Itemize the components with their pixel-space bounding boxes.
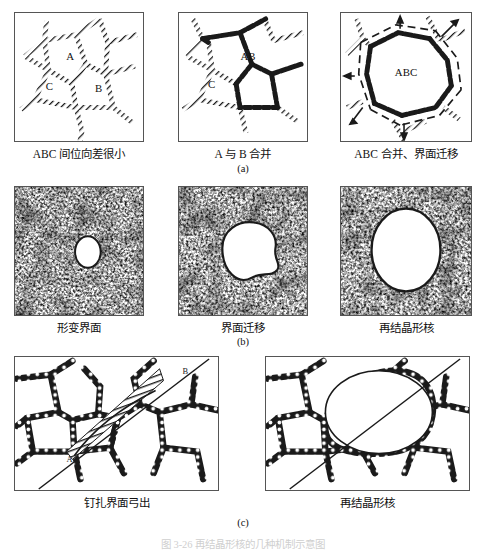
caption-b1: 形变界面 — [14, 322, 144, 335]
caption-b2: 界面迁移 — [178, 322, 308, 335]
panel-c1-pinned-boundary-bulging: A B — [14, 356, 219, 491]
panel-a3-abc-migration: ABC — [340, 12, 472, 142]
figure-bottom-caption: 图 3-26 再结晶形核的几种机制示意图 — [0, 536, 486, 551]
figure-row-c: A B 钉扎界面弓出 — [0, 356, 486, 545]
row-label-c: (c) — [0, 517, 486, 528]
boundary-label-a: A — [66, 455, 72, 464]
caption-c2: 再结晶形核 — [265, 497, 470, 510]
panel-b3-recrystallization-nucleus — [340, 186, 472, 316]
panel-a2-ab-merged: AB C — [178, 12, 308, 142]
caption-b3: 再结晶形核 — [340, 322, 472, 335]
panel-b2-boundary-migration — [178, 186, 308, 316]
panel-c2-recrystallization-nucleus — [265, 356, 470, 491]
grain-label-abc: ABC — [395, 66, 417, 78]
panel-a1-subgrains: A C B — [14, 12, 144, 142]
grain-label-b: B — [95, 82, 102, 94]
caption-a1: ABC 间位向差很小 — [14, 148, 144, 161]
boundary-label-b: B — [183, 367, 189, 376]
grain-label-a: A — [66, 50, 74, 62]
row-label-b: (b) — [0, 336, 486, 347]
grain-label-c: C — [46, 80, 53, 92]
caption-a2: A 与 B 合并 — [178, 148, 308, 161]
grain-label-c: C — [208, 78, 215, 90]
caption-a3: ABC 合并、界面迁移 — [340, 148, 472, 161]
grain-label-ab: AB — [240, 50, 255, 62]
row-label-a: (a) — [0, 163, 486, 174]
figure-row-a: A C B ABC 间位向差很小 — [0, 0, 486, 180]
caption-c1: 钉扎界面弓出 — [14, 497, 219, 510]
panel-b1-deformed-boundary — [14, 186, 144, 316]
figure-row-b: 形变界面 — [0, 186, 486, 350]
